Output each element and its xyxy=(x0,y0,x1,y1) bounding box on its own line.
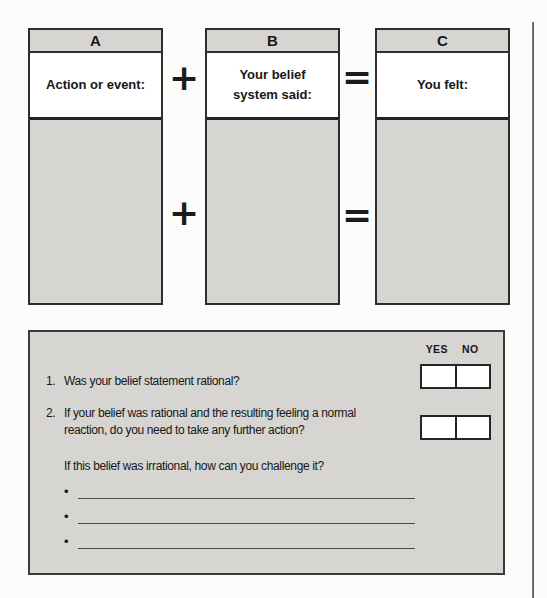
q2-checkbox-pair xyxy=(420,415,491,440)
question-2-line-2: reaction, do you need to take any furthe… xyxy=(64,422,356,439)
question-1-text: Was your belief statement rational? xyxy=(64,373,239,390)
question-1-number: 1. xyxy=(46,373,64,390)
column-a-label: Action or event: xyxy=(46,75,145,95)
column-b: B Your belief system said: xyxy=(205,28,340,305)
challenge-answer-row-1: • xyxy=(64,480,415,499)
q2-yes-checkbox[interactable] xyxy=(422,417,455,438)
column-b-header: B xyxy=(207,30,338,53)
question-2: 2. If your belief was rational and the r… xyxy=(46,405,356,439)
question-2-text: If your belief was rational and the resu… xyxy=(64,405,356,439)
challenge-answer-line-1[interactable] xyxy=(78,479,415,499)
equals-operator-top: = xyxy=(339,59,375,95)
question-2-number: 2. xyxy=(46,405,64,439)
column-a-header: A xyxy=(30,30,161,53)
plus-operator-top: + xyxy=(166,60,202,96)
column-b-write-area[interactable] xyxy=(207,120,338,303)
column-b-label: Your belief system said: xyxy=(223,65,323,105)
challenge-answer-row-2: • xyxy=(64,505,415,524)
page-edge-rule xyxy=(532,22,534,598)
column-a-label-cell: Action or event: xyxy=(30,53,161,120)
bullet-icon: • xyxy=(64,534,78,549)
column-c-label-cell: You felt: xyxy=(377,53,508,120)
bullet-icon: • xyxy=(64,484,78,499)
yes-label: YES xyxy=(420,343,454,355)
column-c-write-area[interactable] xyxy=(377,120,508,303)
q1-checkbox-pair xyxy=(420,364,491,389)
no-label: NO xyxy=(454,343,488,355)
q1-yes-checkbox[interactable] xyxy=(422,366,455,387)
challenge-answer-row-3: • xyxy=(64,530,415,549)
worksheet-page: A Action or event: + B Your belief syste… xyxy=(0,0,547,598)
column-c-header: C xyxy=(377,30,508,53)
yes-no-header: YES NO xyxy=(420,343,487,355)
equals-operator-bottom: = xyxy=(339,197,375,233)
q2-no-checkbox[interactable] xyxy=(455,417,490,438)
bullet-icon: • xyxy=(64,509,78,524)
question-2-line-1: If your belief was rational and the resu… xyxy=(64,405,356,422)
question-1: 1. Was your belief statement rational? xyxy=(46,373,239,390)
plus-operator-bottom: + xyxy=(166,195,202,231)
q1-no-checkbox[interactable] xyxy=(455,366,490,387)
column-a: A Action or event: xyxy=(28,28,163,305)
challenge-answer-line-3[interactable] xyxy=(78,529,415,549)
column-c: C You felt: xyxy=(375,28,510,305)
column-b-label-cell: Your belief system said: xyxy=(207,53,338,120)
column-c-label: You felt: xyxy=(417,75,468,95)
challenge-prompt: If this belief was irrational, how can y… xyxy=(64,459,324,473)
questions-panel: YES NO 1. Was your belief statement rati… xyxy=(28,330,505,575)
column-a-write-area[interactable] xyxy=(30,120,161,303)
challenge-answer-line-2[interactable] xyxy=(78,504,415,524)
